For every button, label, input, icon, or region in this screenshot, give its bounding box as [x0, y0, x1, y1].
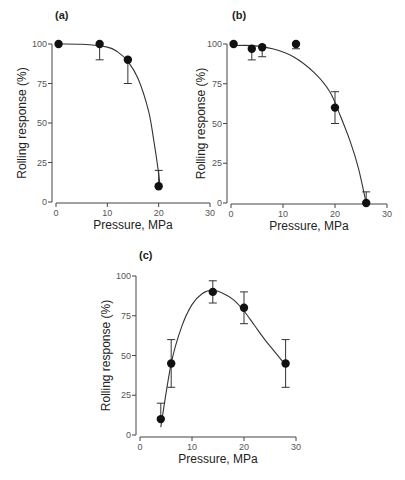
fit-curve: [231, 45, 366, 203]
figure: (a)02550751000102030Pressure, MPaRolling…: [0, 0, 405, 480]
chart-panel-b: (b)02550751000102030Pressure, MPaRolling…: [194, 9, 392, 233]
x-axis-title: Pressure, MPa: [178, 452, 258, 466]
x-tick-label: 0: [228, 209, 233, 219]
x-tick-label: 20: [330, 209, 340, 219]
y-tick-label: 25: [121, 390, 131, 400]
x-tick-label: 0: [53, 208, 58, 218]
data-point: [258, 43, 266, 51]
x-tick-label: 10: [187, 442, 197, 452]
data-point: [362, 199, 370, 207]
data-point: [248, 45, 256, 53]
y-tick-label: 0: [42, 197, 47, 207]
data-point: [124, 56, 132, 64]
data-point: [281, 359, 289, 367]
x-tick-label: 10: [278, 209, 288, 219]
fit-curve: [161, 290, 286, 427]
x-tick-label: 0: [137, 442, 142, 452]
x-tick-label: 20: [239, 442, 249, 452]
y-tick-label: 50: [37, 118, 47, 128]
y-tick-label: 50: [212, 119, 222, 129]
panel-label: (a): [55, 9, 69, 21]
fit-curve: [56, 44, 160, 189]
y-axis-title: Rolling response (%): [15, 67, 29, 178]
chart-panel-a: (a)02550751000102030Pressure, MPaRolling…: [15, 9, 215, 232]
y-tick-label: 75: [212, 79, 222, 89]
data-point: [167, 359, 175, 367]
data-point: [229, 40, 237, 48]
data-point: [292, 40, 300, 48]
data-point: [154, 182, 162, 190]
data-point: [209, 288, 217, 296]
data-point: [54, 40, 62, 48]
data-point: [157, 415, 165, 423]
y-tick-label: 0: [217, 198, 222, 208]
x-axis-title: Pressure, MPa: [93, 218, 173, 232]
data-point: [331, 103, 339, 111]
y-tick-label: 0: [126, 430, 131, 440]
y-tick-label: 25: [37, 158, 47, 168]
y-tick-label: 100: [207, 39, 222, 49]
y-tick-label: 25: [212, 158, 222, 168]
y-tick-label: 100: [32, 39, 47, 49]
y-axis-title: Rolling response (%): [194, 68, 208, 179]
x-axis-title: Pressure, MPa: [269, 219, 349, 233]
chart-panel-c: (c)02550751000102030Pressure, MPaRolling…: [99, 249, 301, 466]
panel-label: (c): [139, 249, 153, 261]
data-point: [95, 40, 103, 48]
data-point: [240, 304, 248, 312]
x-tick-label: 10: [102, 208, 112, 218]
panel-label: (b): [232, 9, 246, 21]
y-tick-label: 75: [37, 79, 47, 89]
x-tick-label: 30: [382, 209, 392, 219]
x-tick-label: 20: [154, 208, 164, 218]
x-tick-label: 30: [205, 208, 215, 218]
y-tick-label: 50: [121, 351, 131, 361]
y-tick-label: 100: [116, 271, 131, 281]
x-tick-label: 30: [291, 442, 301, 452]
y-tick-label: 75: [121, 311, 131, 321]
y-axis-title: Rolling response (%): [99, 300, 113, 411]
